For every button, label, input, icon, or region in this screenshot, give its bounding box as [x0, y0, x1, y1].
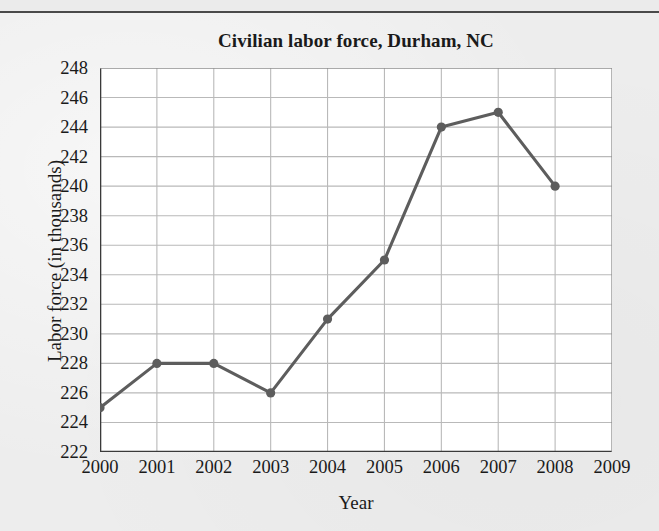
y-axis-tick-labels: 2222242262282302322342362382402422442462… — [28, 68, 88, 452]
y-tick-label: 242 — [36, 148, 88, 167]
plot-background — [100, 68, 612, 452]
y-tick-label: 226 — [36, 384, 88, 403]
page-top-rule — [0, 11, 659, 13]
chart-title: Civilian labor force, Durham, NC — [100, 30, 612, 52]
y-tick-label: 246 — [36, 89, 88, 108]
x-tick-label: 2009 — [577, 458, 647, 477]
y-tick-label: 248 — [36, 59, 88, 78]
y-tick-label: 240 — [36, 177, 88, 196]
line-chart-svg — [100, 68, 612, 452]
y-tick-label: 232 — [36, 295, 88, 314]
y-tick-label: 234 — [36, 266, 88, 285]
figure-container: Civilian labor force, Durham, NC Labor f… — [0, 0, 659, 531]
plot-area — [100, 68, 612, 452]
y-tick-label: 230 — [36, 325, 88, 344]
y-tick-label: 244 — [36, 118, 88, 137]
x-axis-title: Year — [100, 492, 612, 514]
y-tick-label: 228 — [36, 354, 88, 373]
y-tick-label: 238 — [36, 207, 88, 226]
x-axis-tick-labels: 2000200120022003200420052006200720082009 — [100, 458, 612, 484]
y-tick-label: 224 — [36, 413, 88, 432]
y-tick-label: 236 — [36, 236, 88, 255]
